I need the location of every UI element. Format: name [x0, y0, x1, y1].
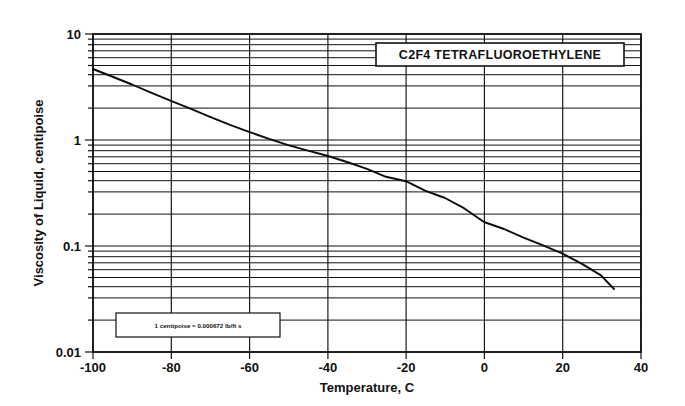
y-tick-label-0.1: 0.1	[63, 239, 81, 254]
x-tick-label--60: -60	[240, 360, 259, 375]
chart-figure: C2F4 TETRAFLUOROETHYLENE 1 centipoise = …	[0, 0, 685, 406]
x-axis-ticks	[93, 352, 641, 359]
chart-title-label: C2F4 TETRAFLUOROETHYLENE	[399, 48, 601, 62]
conversion-note: 1 centipoise = 0.000672 lb/ft s	[116, 313, 280, 337]
x-tick-label-20: 20	[555, 360, 569, 375]
y-axis-title: Viscosity of Liquid, centipoise	[31, 100, 46, 287]
x-tick-label--100: -100	[80, 360, 106, 375]
plot-background	[93, 34, 641, 352]
x-tick-label-40: 40	[634, 360, 648, 375]
chart-title-callout: C2F4 TETRAFLUOROETHYLENE	[376, 43, 624, 66]
y-tick-labels: 10 1 0.1 0.01	[56, 27, 81, 360]
conversion-note-label: 1 centipoise = 0.000672 lb/ft s	[155, 322, 242, 329]
x-axis-title: Temperature, C	[320, 380, 415, 395]
viscosity-semilog-chart: C2F4 TETRAFLUOROETHYLENE 1 centipoise = …	[0, 0, 685, 406]
x-tick-label--40: -40	[319, 360, 338, 375]
x-tick-label-0: 0	[481, 360, 488, 375]
x-tick-label--80: -80	[162, 360, 181, 375]
x-tick-label--20: -20	[397, 360, 416, 375]
y-axis-ticks	[85, 34, 93, 352]
y-tick-label-0.01: 0.01	[56, 345, 81, 360]
x-tick-labels: -100 -80 -60 -40 -20 0 20 40	[80, 360, 648, 375]
y-tick-label-1: 1	[74, 133, 81, 148]
y-tick-label-10: 10	[67, 27, 81, 42]
